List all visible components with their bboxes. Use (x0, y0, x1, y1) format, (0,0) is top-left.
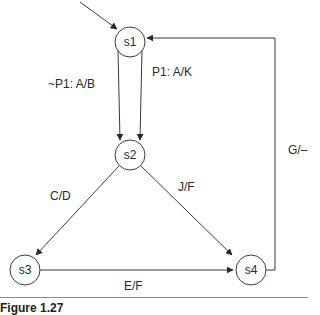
transition-label: G/– (288, 143, 308, 157)
state-s1: s1 (115, 27, 145, 57)
caption-divider (0, 297, 308, 298)
transition-label: ~P1: A/B (48, 77, 95, 91)
transition-label: P1: A/K (152, 65, 192, 79)
initial-transition-arrow (80, 2, 117, 29)
figure-caption: Figure 1.27 (0, 301, 63, 315)
transition-s1-s2-right (140, 50, 142, 140)
state-s4: s4 (236, 255, 266, 285)
state-label: s4 (245, 263, 258, 277)
state-label: s3 (19, 263, 32, 277)
transition-s2-s3 (36, 166, 119, 255)
transition-label: E/F (124, 279, 143, 293)
transition-s1-s2-left (118, 50, 120, 140)
state-label: s1 (124, 35, 137, 49)
transition-label: J/F (178, 180, 195, 194)
state-s3: s3 (10, 255, 40, 285)
state-s2: s2 (115, 140, 145, 170)
transition-label: C/D (50, 189, 71, 203)
state-label: s2 (124, 148, 137, 162)
